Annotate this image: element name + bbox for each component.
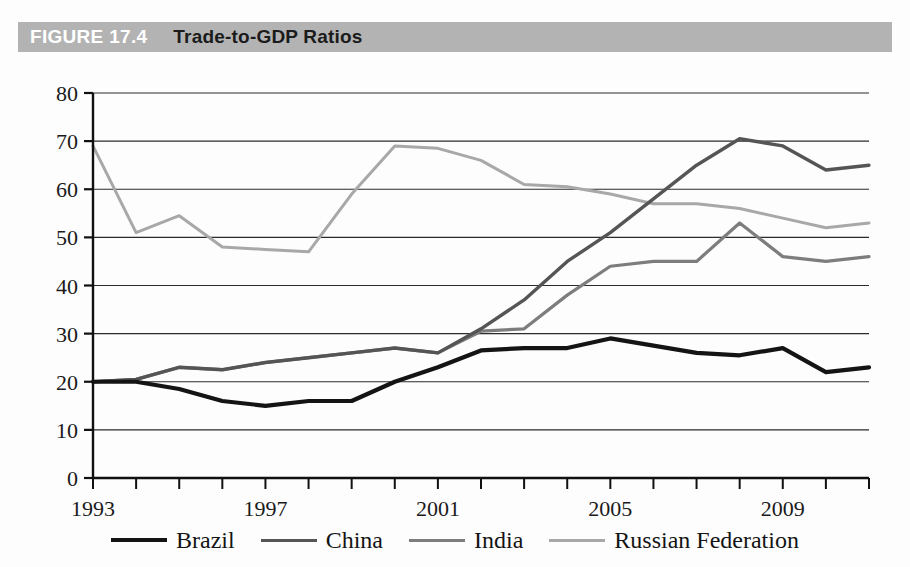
legend-line-swatch [409, 539, 465, 542]
y-axis-tick-label: 20 [56, 370, 78, 395]
figure-header-band: FIGURE 17.4 Trade-to-GDP Ratios [18, 22, 892, 52]
y-axis-tick-label: 80 [56, 81, 78, 106]
x-axis-tick-label: 2001 [416, 496, 460, 521]
y-axis-tick-label: 0 [67, 466, 78, 491]
y-axis-tick-label: 70 [56, 129, 78, 154]
series-line-russian-federation [93, 146, 869, 252]
legend-line-swatch [549, 539, 605, 542]
legend-item-russian-federation[interactable]: Russian Federation [549, 527, 799, 554]
y-axis-tick-label: 10 [56, 418, 78, 443]
legend-item-label: Brazil [176, 527, 235, 554]
figure-title-label: Trade-to-GDP Ratios [173, 26, 362, 48]
y-tickmarks-group [84, 93, 93, 478]
gridlines-group [93, 93, 869, 430]
x-axis-tick-label: 1993 [71, 496, 115, 521]
y-axis-tick-label: 30 [56, 322, 78, 347]
figure-container: FIGURE 17.4 Trade-to-GDP Ratios 01020304… [0, 0, 910, 567]
line-chart: 01020304050607080 19931997200120052009 [0, 55, 910, 567]
x-axis-labels-group: 19931997200120052009 [71, 496, 805, 521]
chart-legend: BrazilChinaIndiaRussian Federation [0, 519, 910, 561]
x-tickmarks-group [93, 478, 869, 489]
series-line-brazil [93, 338, 869, 405]
figure-number-label: FIGURE 17.4 [30, 26, 147, 48]
legend-item-china[interactable]: China [261, 527, 383, 554]
x-axis-tick-label: 2005 [588, 496, 632, 521]
y-axis-tick-label: 40 [56, 274, 78, 299]
x-axis-tick-label: 2009 [761, 496, 805, 521]
legend-item-label: India [474, 527, 523, 554]
legend-line-swatch [261, 539, 317, 542]
legend-item-brazil[interactable]: Brazil [111, 527, 235, 554]
y-axis-tick-label: 50 [56, 225, 78, 250]
y-axis-labels-group: 01020304050607080 [56, 81, 78, 491]
series-line-china [93, 139, 869, 382]
legend-item-label: China [326, 527, 383, 554]
data-series-group [93, 139, 869, 406]
legend-item-india[interactable]: India [409, 527, 523, 554]
y-axis-tick-label: 60 [56, 177, 78, 202]
legend-item-label: Russian Federation [614, 527, 799, 554]
legend-line-swatch [111, 538, 167, 542]
chart-svg: 01020304050607080 19931997200120052009 [0, 55, 910, 567]
series-line-india [93, 223, 869, 382]
x-axis-tick-label: 1997 [243, 496, 287, 521]
